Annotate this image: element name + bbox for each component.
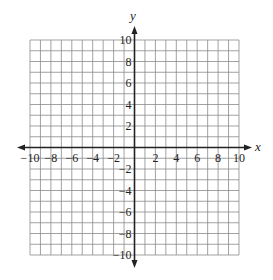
coordinate-plane: −10−8−6−4−2246810108642−2−4−6−8−10 x y <box>0 0 273 280</box>
y-tick-label: −8 <box>119 227 132 241</box>
x-tick-label: −6 <box>65 151 78 165</box>
y-tick-label: 6 <box>126 76 132 90</box>
y-axis-up-arrow-icon <box>132 26 138 34</box>
x-axis-right-arrow-icon <box>244 145 252 151</box>
x-tick-label: 2 <box>152 151 158 165</box>
y-tick-label: 10 <box>120 33 132 47</box>
y-tick-label: 2 <box>126 119 132 133</box>
y-tick-label: −2 <box>119 162 132 176</box>
y-tick-label: −6 <box>119 205 132 219</box>
x-axis-label: x <box>254 139 261 154</box>
y-tick-label: −10 <box>113 248 132 262</box>
x-tick-label: 8 <box>215 151 221 165</box>
axes <box>17 26 252 268</box>
y-axis-label: y <box>128 8 136 23</box>
x-tick-label: −8 <box>45 151 58 165</box>
y-tick-label: 8 <box>126 55 132 69</box>
y-axis-down-arrow-icon <box>132 260 138 268</box>
y-tick-label: −4 <box>119 184 132 198</box>
y-tick-label: 4 <box>126 98 132 112</box>
x-tick-label: −4 <box>86 151 99 165</box>
x-tick-label: 10 <box>233 151 245 165</box>
x-tick-label: 6 <box>194 151 200 165</box>
x-tick-label: 4 <box>173 151 179 165</box>
x-tick-label: −10 <box>21 151 40 165</box>
